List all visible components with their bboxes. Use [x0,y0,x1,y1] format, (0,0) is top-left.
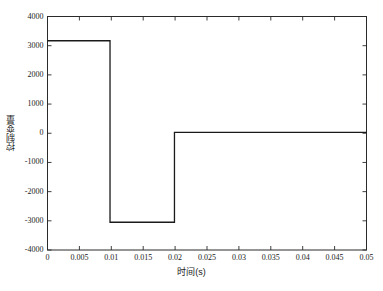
axes-frame [48,17,367,251]
x-tick-label: 0.04 [296,254,310,262]
y-tick-label: -1000 [25,158,44,166]
y-tick-label: 3000 [28,42,44,50]
x-tick-label: 0 [46,254,50,262]
y-tick-label: 0 [40,129,44,137]
y-tick-label: 1000 [28,100,44,108]
x-tick-label: 0.02 [168,254,182,262]
plot-canvas [0,0,383,291]
x-tick-label: 0.025 [198,254,216,262]
y-axis-title: 控制变量 [6,115,15,151]
figure-container: 40003000200010000-1000-2000-3000-4000 00… [0,0,383,291]
x-tick-label: 0.03 [232,254,246,262]
plot-frame [48,17,367,251]
x-tick-label: 0.005 [70,254,88,262]
y-tick-label: 4000 [28,13,44,21]
y-tick-label: -2000 [25,188,44,196]
x-tick-label: 0.045 [326,254,344,262]
x-tick-label: 0.035 [262,254,280,262]
x-tick-label: 0.015 [134,254,152,262]
x-tick-label: 0.05 [360,254,374,262]
x-tick-label: 0.01 [104,254,118,262]
y-tick-label: -4000 [25,246,44,254]
y-tick-label: 2000 [28,71,44,79]
y-tick-label: -3000 [25,217,44,225]
x-axis-title: 时间(s) [0,268,383,277]
